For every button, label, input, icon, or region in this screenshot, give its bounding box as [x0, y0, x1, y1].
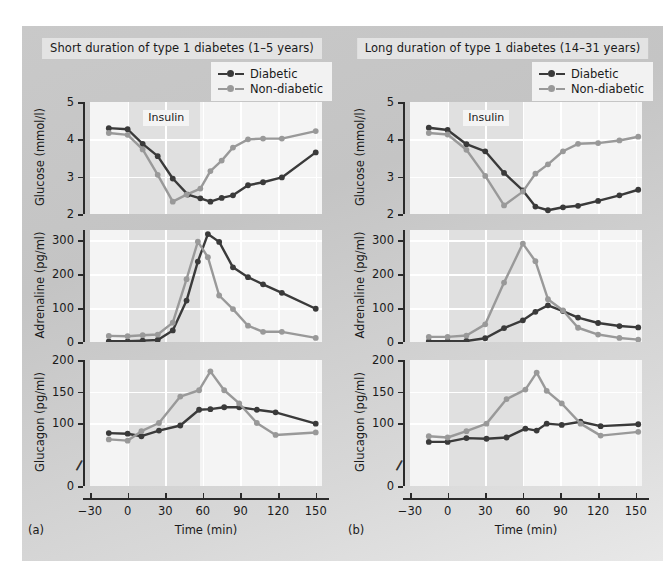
data-point — [205, 254, 211, 260]
y-tick — [398, 392, 403, 394]
data-point — [125, 438, 131, 444]
data-point — [635, 187, 641, 193]
data-point — [522, 387, 528, 393]
x-tick — [410, 493, 412, 498]
legend-marker-non-diabetic-icon — [539, 84, 565, 94]
y-tick — [78, 392, 83, 394]
data-point — [426, 439, 432, 445]
data-point — [313, 128, 319, 134]
data-point — [125, 333, 131, 339]
series-layer-adrenaline — [90, 230, 322, 342]
x-tick — [560, 493, 562, 498]
data-point — [313, 306, 319, 312]
x-tick-label: 60 — [196, 504, 211, 518]
y-tick — [398, 274, 403, 276]
data-point — [617, 192, 623, 198]
data-point — [156, 428, 162, 434]
data-point — [484, 421, 490, 427]
data-point — [534, 428, 540, 434]
data-point — [156, 420, 162, 426]
data-point — [559, 422, 565, 428]
data-point — [559, 401, 565, 407]
data-point — [595, 140, 601, 146]
data-point — [106, 338, 112, 342]
data-point — [545, 161, 551, 167]
data-point — [236, 401, 242, 407]
x-axis-line — [83, 498, 329, 500]
data-point — [426, 334, 432, 340]
data-point — [534, 370, 540, 376]
y-tick — [78, 214, 83, 216]
data-point — [139, 428, 145, 434]
y-tick — [78, 486, 83, 488]
data-point — [279, 290, 285, 296]
insulin-label: Insulin — [143, 110, 189, 126]
data-point — [106, 436, 112, 442]
data-point — [617, 323, 623, 329]
series-line-diabetic — [429, 128, 638, 211]
y-tick — [78, 423, 83, 425]
data-point — [140, 338, 146, 342]
panel-b-letter: (b) — [348, 523, 364, 537]
data-point — [245, 274, 251, 280]
data-point — [170, 328, 176, 334]
plot-area-adrenaline — [90, 230, 322, 342]
x-tick — [128, 493, 130, 498]
data-point — [125, 126, 131, 132]
data-point — [520, 189, 526, 195]
y-tick — [78, 274, 83, 276]
x-tick-label: 30 — [158, 504, 173, 518]
y-axis-line-adrenaline — [403, 230, 405, 342]
data-point — [635, 337, 641, 342]
x-tick-label: 0 — [124, 504, 131, 518]
data-point — [155, 172, 161, 178]
legend-item-diabetic[interactable]: Diabetic — [218, 66, 323, 81]
data-point — [426, 130, 432, 136]
data-point — [575, 315, 581, 321]
data-point — [273, 409, 279, 415]
data-point — [445, 132, 451, 138]
data-point — [279, 175, 285, 181]
data-point — [125, 431, 131, 437]
series-layer-glucagon — [410, 360, 642, 486]
data-point — [207, 406, 213, 412]
data-point — [464, 435, 470, 441]
legend-marker-non-diabetic-icon — [218, 84, 244, 94]
y-tick — [398, 342, 403, 344]
y-axis-line-glucagon — [83, 360, 85, 486]
y-tick — [78, 102, 83, 104]
legend-item-non-diabetic[interactable]: Non-diabetic — [218, 81, 323, 96]
data-point — [197, 195, 203, 201]
panel-a-x-axis-title: Time (min) — [175, 523, 237, 537]
data-point — [520, 317, 526, 323]
data-point — [245, 323, 251, 329]
series-line-non-diabetic — [109, 242, 316, 338]
legend-item-non-diabetic[interactable]: Non-diabetic — [539, 81, 644, 96]
data-point — [260, 179, 266, 185]
x-tick — [203, 493, 205, 498]
y-tick — [78, 342, 83, 344]
data-point — [501, 280, 507, 286]
data-point — [313, 421, 319, 427]
legend-item-diabetic[interactable]: Diabetic — [539, 66, 644, 81]
data-point — [635, 134, 641, 140]
data-point — [545, 207, 551, 213]
data-point — [140, 147, 146, 153]
data-point — [219, 195, 225, 201]
panel-b-x-axis-title: Time (min) — [495, 523, 557, 537]
data-point — [533, 171, 539, 177]
data-point — [426, 125, 432, 131]
data-point — [464, 338, 470, 342]
y-axis-break-icon: ∕∕ — [76, 458, 79, 471]
data-point — [155, 332, 161, 338]
data-point — [464, 147, 470, 153]
panel-b-title: Long duration of type 1 diabetes (14–31 … — [357, 38, 649, 59]
plot-area-adrenaline — [410, 230, 642, 342]
x-tick-label: 60 — [516, 504, 531, 518]
y-tick — [398, 177, 403, 179]
data-point — [221, 404, 227, 410]
data-point — [482, 321, 488, 327]
legend-label-diabetic: Diabetic — [250, 67, 298, 81]
data-point — [139, 433, 145, 439]
panel-a-title: Short duration of type 1 diabetes (1–5 y… — [42, 38, 322, 59]
